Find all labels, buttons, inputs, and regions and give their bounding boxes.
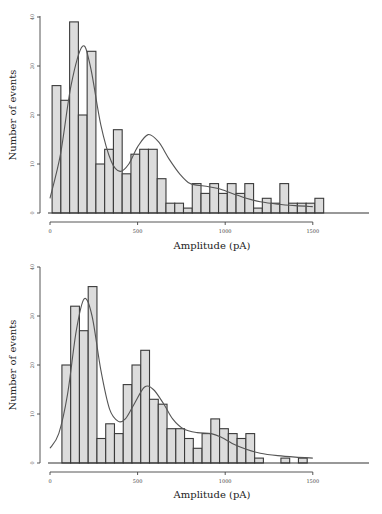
histogram-bar (97, 439, 106, 464)
histogram-bar (246, 434, 255, 463)
y-axis-bottom: 010203040 (29, 264, 40, 465)
histogram-bar (298, 458, 307, 463)
histogram-bar (87, 51, 96, 213)
y-tick-label: 40 (29, 14, 35, 20)
histogram-bar (280, 184, 289, 213)
histogram-bottom: 010203040 050010001500 Amplitude (pA) Nu… (7, 264, 369, 500)
y-axis-title-top: Number of events (7, 70, 18, 161)
histogram-bar (158, 404, 167, 463)
histogram-bar (96, 164, 105, 213)
x-tick-label: 0 (48, 478, 51, 484)
bars-bottom (62, 287, 307, 463)
bars-top (52, 22, 324, 213)
y-tick-label: 20 (29, 112, 35, 118)
y-tick-label: 40 (29, 264, 35, 270)
y-axis-title-bottom: Number of events (7, 320, 18, 411)
histogram-bar (193, 448, 202, 463)
histogram-bar (88, 287, 97, 463)
y-tick-label: 30 (29, 313, 35, 319)
x-tick-label: 500 (133, 228, 143, 234)
histogram-bar (289, 203, 298, 213)
x-tick-label: 1500 (306, 478, 319, 484)
x-tick-label: 0 (48, 228, 51, 234)
histogram-bar (78, 115, 87, 213)
histogram-bar (148, 149, 157, 213)
x-tick-label: 1000 (219, 478, 232, 484)
histogram-bar (255, 458, 264, 463)
histogram-bar (52, 86, 61, 213)
histogram-bar (79, 331, 88, 463)
x-axis-bottom: 050010001500 (48, 472, 319, 484)
histogram-bar (106, 424, 115, 463)
x-axis-top: 050010001500 (48, 222, 319, 234)
histogram-bar (219, 193, 228, 213)
y-axis-top: 010203040 (29, 14, 40, 215)
histogram-bar (306, 203, 315, 213)
y-tick-label: 10 (29, 411, 35, 417)
histogram-bar (297, 203, 306, 213)
histogram-bar (175, 203, 184, 213)
histogram-bar (167, 429, 176, 463)
histogram-bar (176, 429, 185, 463)
figure: 010203040 050010001500 Amplitude (pA) Nu… (0, 0, 382, 514)
histogram-bar (192, 184, 201, 213)
y-tick-label: 0 (29, 461, 35, 464)
histogram-bar (122, 174, 131, 213)
histogram-bar (131, 154, 140, 213)
histogram-bar (211, 419, 220, 463)
x-tick-label: 500 (133, 478, 143, 484)
y-tick-label: 10 (29, 161, 35, 167)
histogram-bar (70, 22, 79, 213)
histogram-bar (228, 434, 237, 463)
histogram-bar (141, 350, 150, 463)
histogram-bar (71, 306, 80, 463)
x-axis-title-bottom: Amplitude (pA) (173, 489, 251, 500)
histogram-bar (157, 179, 166, 213)
histogram-bar (150, 399, 159, 463)
histogram-bar (105, 149, 114, 213)
histogram-bar (184, 208, 193, 213)
y-tick-label: 20 (29, 362, 35, 368)
y-tick-label: 0 (29, 211, 35, 214)
histogram-bar (237, 439, 246, 464)
x-tick-label: 1500 (306, 228, 319, 234)
histogram-bar (220, 429, 229, 463)
histogram-bar (262, 198, 271, 213)
histogram-bar (123, 385, 132, 463)
x-tick-label: 1000 (219, 228, 232, 234)
histogram-bar (254, 208, 263, 213)
histogram-bar (185, 439, 194, 464)
histogram-bar (227, 184, 236, 213)
histogram-bar (281, 458, 290, 463)
y-tick-label: 30 (29, 63, 35, 69)
histogram-bar (61, 100, 70, 213)
histogram-bar (140, 149, 149, 213)
histogram-bar (114, 434, 123, 463)
histogram-bar (315, 198, 324, 213)
histogram-bar (202, 434, 211, 463)
histogram-top: 010203040 050010001500 Amplitude (pA) Nu… (7, 14, 369, 251)
histogram-bar (201, 193, 210, 213)
histogram-bar (132, 365, 141, 463)
histogram-bar (166, 203, 175, 213)
x-axis-title-top: Amplitude (pA) (173, 240, 251, 251)
